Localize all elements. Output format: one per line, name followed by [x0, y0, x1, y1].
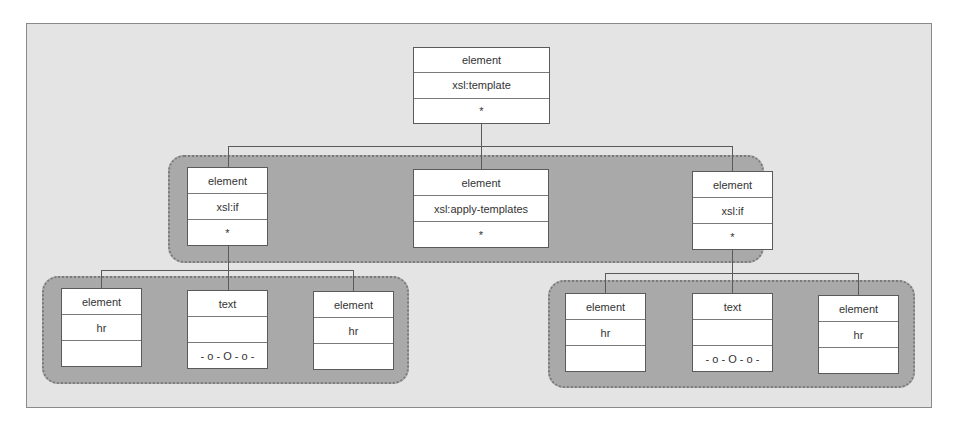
node-left-text: text - o - O - o -	[187, 290, 268, 369]
connector-to-left-hr1	[101, 270, 102, 288]
node-if-left: element xsl:if *	[187, 167, 268, 246]
node-kind: element	[693, 172, 772, 198]
node-kind: text	[693, 294, 772, 320]
node-right-hr-1: element hr	[565, 293, 646, 372]
node-left-hr-1: element hr	[61, 288, 142, 367]
node-value	[62, 341, 141, 366]
connector-if-right-stem	[732, 249, 733, 293]
node-kind: element	[566, 294, 645, 320]
node-apply-templates: element xsl:apply-templates *	[413, 169, 549, 248]
node-if-right: element xsl:if *	[692, 171, 773, 250]
node-kind: element	[62, 289, 141, 315]
node-value: *	[188, 220, 267, 245]
connector-to-if-left	[228, 146, 229, 167]
node-name	[693, 320, 772, 346]
node-name: xsl:if	[188, 194, 267, 220]
node-value	[819, 348, 898, 373]
node-name: hr	[314, 318, 393, 344]
node-value	[566, 346, 645, 371]
connector-to-left-hr2	[353, 270, 354, 291]
connector-level3-left-bar	[101, 270, 354, 271]
node-value: - o - O - o -	[188, 343, 267, 368]
node-kind: element	[314, 292, 393, 318]
node-name: xsl:if	[693, 198, 772, 224]
node-name: hr	[819, 322, 898, 348]
node-kind: element	[414, 170, 548, 196]
node-kind: element	[414, 48, 549, 73]
node-value: *	[693, 224, 772, 249]
node-value: - o - O - o -	[693, 346, 772, 371]
connector-level2-bar	[228, 146, 733, 147]
connector-to-if-right	[732, 146, 733, 171]
node-root-template: element xsl:template *	[413, 47, 550, 124]
connector-to-right-hr1	[605, 273, 606, 293]
node-name: hr	[62, 315, 141, 341]
node-kind: element	[188, 168, 267, 194]
node-name: xsl:template	[414, 73, 549, 98]
node-name: hr	[566, 320, 645, 346]
node-value	[314, 344, 393, 369]
node-value: *	[414, 222, 548, 247]
connector-level3-right-bar	[605, 273, 859, 274]
connector-if-left-stem	[228, 245, 229, 290]
node-left-hr-2: element hr	[313, 291, 394, 370]
node-kind: text	[188, 291, 267, 317]
node-name	[188, 317, 267, 343]
node-right-text: text - o - O - o -	[692, 293, 773, 372]
node-value: *	[414, 99, 549, 123]
node-name: xsl:apply-templates	[414, 196, 548, 222]
node-kind: element	[819, 296, 898, 322]
connector-to-right-hr2	[858, 273, 859, 295]
node-right-hr-2: element hr	[818, 295, 899, 374]
